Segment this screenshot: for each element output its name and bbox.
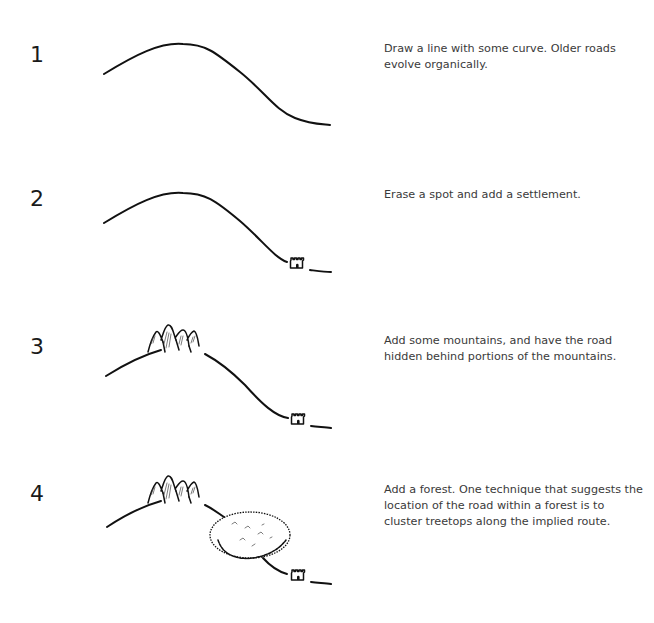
- settlement-icon: [292, 414, 305, 424]
- forest-icon: [210, 512, 290, 558]
- step-number: 3: [30, 334, 44, 359]
- road-line: [104, 44, 330, 125]
- step-description: Erase a spot and add a settlement.: [384, 187, 644, 203]
- step-number: 4: [30, 481, 44, 506]
- road-line: [106, 350, 161, 376]
- step-3-illustration: [106, 325, 331, 428]
- step-description: Draw a line with some curve. Older roads…: [384, 41, 644, 73]
- road-line: [104, 193, 287, 262]
- mountains-icon: [148, 325, 199, 352]
- step-1-illustration: [104, 44, 330, 125]
- road-line: [107, 501, 161, 527]
- step-2-illustration: [104, 193, 331, 272]
- step-4-illustration: [107, 476, 331, 584]
- step-description: Add some mountains, and have the road hi…: [384, 333, 644, 365]
- step-number: 2: [30, 186, 44, 211]
- settlement-icon: [292, 570, 305, 580]
- step-description: Add a forest. One technique that suggest…: [384, 482, 644, 530]
- settlement-icon: [291, 258, 304, 268]
- step-number: 1: [30, 42, 44, 67]
- mountains-icon: [148, 476, 199, 503]
